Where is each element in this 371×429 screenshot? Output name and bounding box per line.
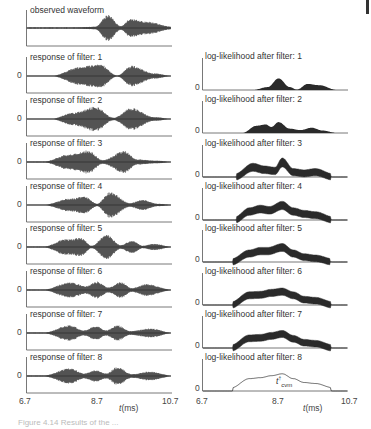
- panel-title: response of filter: 8: [30, 352, 102, 362]
- y-zero-label: 0: [17, 327, 22, 337]
- panel-title: response of filter: 5: [30, 223, 102, 233]
- panel-title: observed waveform: [30, 5, 104, 15]
- left-x-tick-mid: 8.7: [91, 396, 103, 406]
- y-zero-label: 0: [17, 241, 22, 251]
- panel-title: response of filter: 7: [30, 309, 102, 319]
- y-zero-label: 0: [17, 199, 22, 209]
- figure-caption: Figure 4.14 Results of the ...: [18, 418, 119, 427]
- y-zero-label: 0: [195, 383, 200, 393]
- right-x-tick-mid: 8.7: [272, 396, 284, 406]
- left-x-tick-max: 10.7: [162, 396, 179, 406]
- y-zero-label: 0: [195, 169, 200, 179]
- y-zero-label: 0: [17, 370, 22, 380]
- right-x-axis-label: t(ms): [303, 403, 322, 413]
- panel-title: log-likelihood after filter: 3: [205, 138, 302, 148]
- panel-title: log-likelihood after filter: 8: [205, 352, 302, 362]
- panel-title: log-likelihood after filter: 6: [205, 266, 302, 276]
- left-x-axis-label: t(ms): [119, 403, 138, 413]
- y-zero-label: 0: [195, 125, 200, 135]
- panel-title: response of filter: 1: [30, 52, 102, 62]
- panel-title: log-likelihood after filter: 7: [205, 309, 302, 319]
- panel-title: response of filter: 3: [30, 138, 102, 148]
- y-zero-label: 0: [17, 156, 22, 166]
- y-zero-label: 0: [17, 70, 22, 80]
- panel-title: log-likelihood after filter: 4: [205, 181, 302, 191]
- page-edge-marker: [366, 0, 369, 14]
- y-zero-label: 0: [195, 82, 200, 92]
- panel-title: response of filter: 6: [30, 266, 102, 276]
- y-zero-label: 0: [195, 297, 200, 307]
- panel-title: log-likelihood after filter: 5: [205, 223, 302, 233]
- t-cvm-annotation: t†cvm: [276, 375, 292, 388]
- panel-title: response of filter: 4: [30, 181, 102, 191]
- y-zero-label: 0: [17, 113, 22, 123]
- right-x-tick-max: 10.7: [341, 396, 358, 406]
- y-zero-label: 0: [17, 284, 22, 294]
- panel-title: log-likelihood after filter: 2: [205, 94, 302, 104]
- panel-title: log-likelihood after filter: 1: [205, 51, 302, 61]
- y-zero-label: 0: [195, 340, 200, 350]
- left-x-tick-min: 6.7: [19, 396, 31, 406]
- right-x-tick-min: 6.7: [196, 396, 208, 406]
- y-zero-label: 0: [195, 254, 200, 264]
- panel-title: response of filter: 2: [30, 95, 102, 105]
- y-zero-label: 0: [195, 212, 200, 222]
